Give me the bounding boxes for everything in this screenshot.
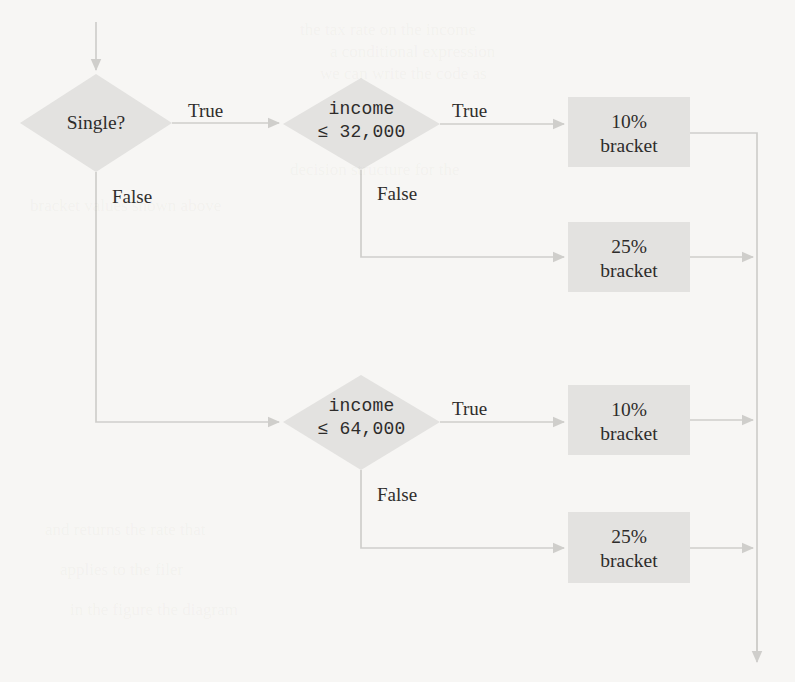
flowchart-diagram: the tax rate on the income a conditional… bbox=[0, 0, 795, 682]
decision-shapes bbox=[20, 74, 440, 470]
edge-income32-false bbox=[361, 170, 564, 257]
outcome-bracket-10-married-shape bbox=[568, 385, 690, 455]
edge-bracket-10-single-to-rail bbox=[690, 133, 757, 655]
decision-income-32000-shape bbox=[283, 78, 440, 170]
decision-single-shape bbox=[20, 74, 172, 172]
edge-income64-false bbox=[361, 470, 564, 548]
outcome-shapes bbox=[568, 97, 690, 583]
outcome-bracket-25-single-shape bbox=[568, 222, 690, 292]
decision-income-64000-shape bbox=[283, 375, 440, 470]
flowchart-canvas bbox=[0, 0, 795, 682]
outcome-bracket-25-married-shape bbox=[568, 512, 690, 583]
outcome-bracket-10-single-shape bbox=[568, 97, 690, 167]
edge-single-false bbox=[96, 172, 279, 422]
